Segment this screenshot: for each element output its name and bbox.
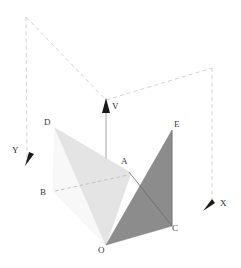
point-label-E: E: [174, 120, 180, 129]
figure-canvas: [0, 0, 241, 268]
dashed-topleft-diagonal: [26, 17, 106, 100]
point-label-A: A: [121, 157, 128, 166]
point-label-C: C: [172, 224, 178, 233]
axis-label-v: V: [112, 102, 119, 111]
point-label-O: O: [98, 246, 105, 255]
x-axis-arrowhead: [203, 199, 215, 211]
dashed-left-vertical: [26, 17, 27, 158]
dashed-topright-diagonal: [106, 68, 212, 100]
point-label-B: B: [40, 188, 46, 197]
geometry-figure: D B A E C O V Y X: [0, 0, 241, 268]
axis-label-x: X: [220, 199, 227, 208]
y-axis-arrowhead: [25, 152, 34, 166]
axis-label-y: Y: [12, 146, 19, 155]
v-axis-arrowhead: [102, 98, 110, 113]
x-axis: [203, 199, 215, 211]
y-axis: [25, 152, 34, 166]
point-label-D: D: [44, 118, 51, 127]
